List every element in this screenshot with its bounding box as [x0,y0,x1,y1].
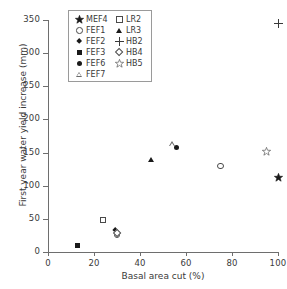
legend-marker-circle-open-icon [74,25,85,36]
legend-item-lr2: LR2 [114,14,143,25]
marker-square-filled [77,50,82,55]
marker-star-open [115,59,124,68]
legend-marker-triangle-filled-icon [114,25,125,36]
y-tick-label: 50 [8,213,40,223]
marker-triangle-filled [148,157,154,162]
legend-item-fef6: FEF6 [74,58,108,69]
scatter-chart: 020406080100 050100150200250300350 Basal… [0,0,287,289]
marker-square-open [100,217,106,223]
marker-plus [274,19,283,28]
legend-item-label: HB4 [126,48,143,57]
x-tick [278,252,279,256]
legend-item-label: FEF6 [86,59,105,68]
legend-item-label: FEF3 [86,48,105,57]
marker-star-open [262,147,271,156]
legend-item-label: FEF7 [86,70,105,79]
x-tick [94,252,95,256]
legend-item-fef7: FEF7 [74,69,108,80]
x-tick-label: 60 [171,258,201,268]
marker-star-filled [274,173,283,182]
y-tick [43,252,48,253]
y-tick [43,86,48,87]
marker-plus [115,37,124,46]
marker-square-filled [75,243,80,248]
legend-item-label: HB5 [126,59,143,68]
legend-item-mef4: MEF4 [74,14,108,25]
y-axis-label: First year water yield increase (mm) [18,40,28,210]
marker-circle-open [76,27,83,34]
marker-circle-filled [174,145,179,150]
x-tick-label: 0 [33,258,63,268]
legend-column-left: MEF4FEF1FEF2FEF3FEF6FEF7 [74,14,108,80]
x-tick [48,252,49,256]
legend-item-fef3: FEF3 [74,47,108,58]
marker-triangle-filled [116,28,122,33]
y-tick [43,153,48,154]
x-tick-label: 80 [217,258,247,268]
legend-marker-star-filled-icon [74,14,85,25]
legend-column-right: LR2LR3HB2HB4HB5 [114,14,143,69]
y-tick [43,20,48,21]
legend-item-label: FEF2 [86,37,105,46]
x-tick-label: 100 [263,258,287,268]
legend-item-hb4: HB4 [114,47,143,58]
marker-triangle-open [76,72,82,77]
legend-marker-triangle-open-icon [74,69,85,80]
legend-item-fef1: FEF1 [74,25,108,36]
legend-marker-plus-icon [114,36,125,47]
y-tick [43,186,48,187]
legend-item-hb5: HB5 [114,58,143,69]
x-tick [186,252,187,256]
marker-diamond-filled [76,38,82,44]
x-tick [140,252,141,256]
marker-circle-filled [77,61,82,66]
y-tick [43,53,48,54]
marker-circle-open [217,163,224,170]
legend-item-lr3: LR3 [114,25,143,36]
legend-marker-diamond-open-icon [114,47,125,58]
legend-item-label: FEF1 [86,26,105,35]
marker-triangle-open [169,141,175,146]
legend-item-label: LR2 [126,15,141,24]
legend-item-label: MEF4 [86,15,108,24]
legend-marker-square-filled-icon [74,47,85,58]
legend-item-label: LR3 [126,26,141,35]
y-axis-line [48,20,49,252]
legend-item-label: HB2 [126,37,143,46]
legend-marker-diamond-filled-icon [74,36,85,47]
y-tick-label: 350 [8,14,40,24]
x-axis-line [48,252,278,253]
legend-marker-circle-filled-icon [74,58,85,69]
y-tick [43,119,48,120]
x-tick-label: 40 [125,258,155,268]
x-tick-label: 20 [79,258,109,268]
legend-item-hb2: HB2 [114,36,143,47]
marker-diamond-open [115,48,124,57]
legend-marker-star-open-icon [114,58,125,69]
marker-square-open [116,16,122,22]
legend-marker-square-open-icon [114,14,125,25]
legend-item-fef2: FEF2 [74,36,108,47]
legend: MEF4FEF1FEF2FEF3FEF6FEF7 LR2LR3HB2HB4HB5 [68,10,152,82]
x-axis-label: Basal area cut (%) [48,271,278,281]
x-tick [232,252,233,256]
y-tick [43,219,48,220]
marker-star-filled [75,15,84,24]
y-tick-label: 0 [8,246,40,256]
